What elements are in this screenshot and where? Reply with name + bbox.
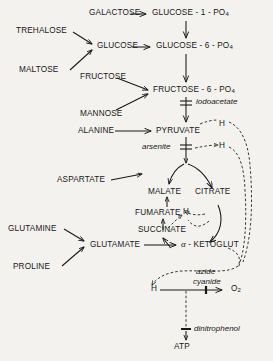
node-galactose: GALACTOSE xyxy=(89,9,140,17)
node-glutamine: GLUTAMINE xyxy=(8,225,57,233)
dashed-hydrogen-transfer-lines xyxy=(152,120,252,327)
node-trehalose: TREHALOSE xyxy=(16,27,67,35)
carrier-hydrogen-pyruvate-1: H xyxy=(219,120,225,128)
node-alanine: ALANINE xyxy=(78,127,114,135)
inhibitor-iodoacetate: iodoacetate xyxy=(196,98,237,106)
carrier-hydrogen-tca: H xyxy=(183,208,189,216)
node-glucose-6-phosphate: GLUCOSE - 6 - PO4 xyxy=(156,42,233,50)
inhibitor-cyanide: cyanide xyxy=(193,278,221,286)
node-glutamate: GLUTAMATE xyxy=(90,241,140,249)
node-proline: PROLINE xyxy=(13,263,50,271)
node-atp: ATP xyxy=(174,343,190,351)
pathway-arrows-layer xyxy=(0,0,273,361)
node-mannose: MANNOSE xyxy=(80,110,122,118)
node-aspartate: ASPARTATE xyxy=(57,176,105,184)
node-fructose-6-phosphate: FRUCTOSE - 6 - PO4 xyxy=(153,86,235,94)
carrier-hydrogen-pyruvate-2: H xyxy=(219,142,225,150)
node-oxygen: O2 xyxy=(231,285,241,293)
node-fructose: FRUCTOSE xyxy=(80,73,126,81)
node-glucose-1-phosphate: GLUCOSE - 1 - PO4 xyxy=(152,9,229,17)
inhibitor-dinitrophenol: dinitrophenol xyxy=(194,325,240,333)
inhibitor-azide: azide xyxy=(196,268,215,276)
metabolic-pathway-diagram: GALACTOSE GLUCOSE - 1 - PO4 TREHALOSE MA… xyxy=(0,0,273,361)
node-maltose: MALTOSE xyxy=(19,66,58,74)
node-hydrogen-terminal: H xyxy=(151,285,157,293)
node-fumarate: FUMARATE xyxy=(135,209,181,217)
node-citrate: CITRATE xyxy=(195,188,230,196)
node-succinate: SUCCINATE xyxy=(138,226,186,234)
node-alpha-ketoglutarate: α - KETOGLUT xyxy=(181,240,239,249)
node-malate: MALATE xyxy=(148,188,181,196)
inhibitor-arsenite: arsenite xyxy=(142,143,170,151)
node-pyruvate: PYRUVATE xyxy=(156,127,200,135)
node-glucose: GLUCOSE xyxy=(97,42,138,50)
